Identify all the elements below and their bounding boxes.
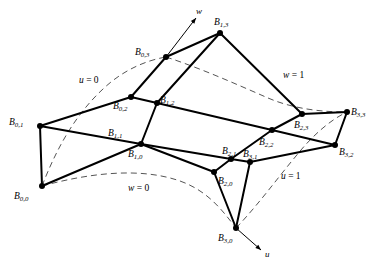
control-point-dot-B00	[39, 183, 45, 189]
parameter-label-u=1: u = 1	[281, 172, 301, 182]
parameter-curve-u=1	[236, 112, 347, 228]
net-edge-B02-B12	[131, 97, 157, 103]
control-point-dot-B32	[332, 142, 338, 148]
control-point-label-B13: B1,3	[214, 18, 228, 28]
u-axis-label: u	[265, 250, 270, 259]
axis-arrow-layer	[166, 18, 261, 250]
control-point-dot-B22	[269, 127, 275, 133]
net-edge-B23-B33	[302, 112, 347, 114]
parameter-label-w=0: w = 0	[128, 184, 149, 194]
control-point-dot-B02	[128, 94, 134, 100]
control-point-label-B01: B0,1	[9, 118, 23, 128]
net-edge-B31-B32	[250, 145, 335, 162]
control-point-label-B02: B0,2	[113, 102, 127, 112]
net-edge-B11-B21	[141, 144, 231, 159]
bezier-patch-figure: u = 0u = 1w = 0w = 1wuB0,0B0,1B0,2B0,3B1…	[0, 0, 383, 274]
control-point-label-B22: B2,2	[259, 138, 273, 148]
net-edge-B20-B21	[214, 159, 231, 172]
parameter-label-u=0: u = 0	[79, 76, 99, 86]
control-point-label-B03: B0,3	[135, 48, 149, 58]
net-edge-B00-B10	[42, 144, 141, 186]
control-point-label-B30: B3,0	[218, 234, 232, 244]
control-point-label-B20: B2,0	[218, 177, 232, 187]
parameter-curve-u=0	[42, 57, 166, 186]
parameter-curve-w=0	[42, 173, 236, 228]
control-point-label-B23: B2,3	[294, 121, 308, 131]
net-edge-B01-B11	[40, 126, 141, 144]
net-edge-B22-B32	[272, 130, 335, 145]
net-edge-B32-B33	[335, 112, 347, 145]
net-edge-B00-B01	[40, 126, 42, 186]
control-point-dot-B23	[299, 111, 305, 117]
net-edge-B11-B12	[141, 103, 157, 144]
control-point-label-B33: B3,3	[351, 108, 365, 118]
net-edge-B10-B20	[141, 144, 214, 172]
control-point-dot-B01	[37, 123, 43, 129]
w-axis-label: w	[196, 7, 202, 16]
control-point-label-B00: B0,0	[14, 192, 28, 202]
control-point-label-B10: B1,0	[128, 150, 142, 160]
control-point-dot-B13	[217, 30, 223, 36]
control-point-label-B32: B3,2	[339, 148, 353, 158]
net-edge-B12-B13	[157, 33, 220, 103]
control-point-label-B31: B3,1	[243, 150, 257, 160]
control-point-dot-B20	[211, 169, 217, 175]
control-point-dot-B03	[163, 54, 169, 60]
control-point-label-B21: B2,1	[222, 147, 236, 157]
control-point-dot-B33	[344, 109, 350, 115]
figure-canvas	[0, 0, 383, 274]
control-point-label-B12: B1,2	[160, 96, 174, 106]
control-point-dot-B10	[138, 141, 144, 147]
net-edge-B30-B31	[236, 162, 250, 228]
control-point-dot-B30	[233, 225, 239, 231]
parameter-curve-w=1	[166, 57, 347, 112]
net-edge-B03-B13	[166, 33, 220, 57]
net-edge-B12-B22	[157, 103, 272, 130]
control-point-label-B11: B1,1	[108, 129, 122, 139]
net-edge-B02-B03	[131, 57, 166, 97]
parameter-label-w=1: w = 1	[283, 71, 304, 81]
